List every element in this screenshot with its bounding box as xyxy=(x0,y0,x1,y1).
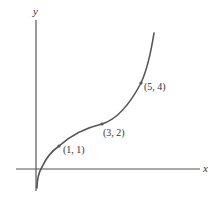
point-label-5-4: (5, 4) xyxy=(144,81,166,93)
point-3-2 xyxy=(100,122,103,125)
point-1-1 xyxy=(57,144,60,147)
point-5-4 xyxy=(139,81,142,84)
function-curve xyxy=(37,33,154,188)
y-axis-label: y xyxy=(32,5,38,17)
x-axis-label: x xyxy=(202,162,208,174)
point-label-3-2: (3, 2) xyxy=(103,127,125,139)
function-graph: y x (1, 1) (3, 2) (5, 4) xyxy=(0,0,218,202)
point-label-1-1: (1, 1) xyxy=(63,144,85,156)
